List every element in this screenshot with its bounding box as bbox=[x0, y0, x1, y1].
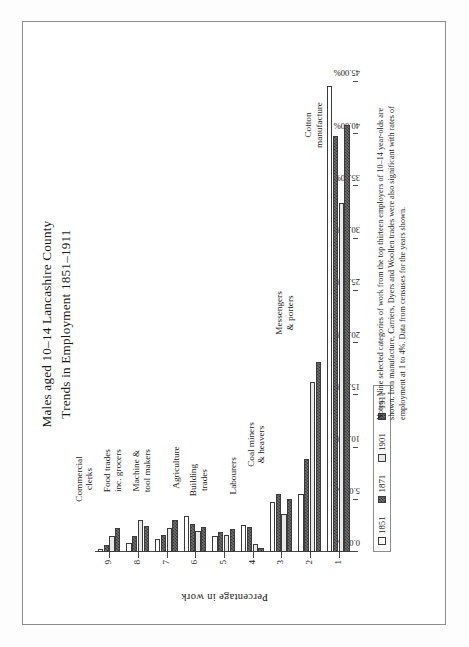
bar-1851-food-trades-inc-grocers bbox=[126, 543, 131, 552]
bar-1911-labourers bbox=[258, 548, 263, 552]
category-axis-tick bbox=[195, 552, 196, 558]
category-axis-number: 1 bbox=[333, 560, 343, 574]
legend-item-1851[interactable]: 1851 bbox=[377, 516, 387, 545]
bar-1901-agriculture bbox=[195, 531, 200, 552]
bar-1901-building-trades bbox=[224, 535, 229, 552]
category-label-line: inc. grocers bbox=[113, 428, 124, 514]
category-label-line: Coal miners bbox=[246, 402, 257, 488]
category-axis-number: 2 bbox=[304, 560, 314, 574]
category-label-line: trades bbox=[199, 437, 210, 523]
bar-1901-labourers bbox=[253, 544, 258, 552]
bar-1911-building-trades bbox=[230, 529, 235, 552]
bar-1901-messengers-porters bbox=[310, 382, 315, 552]
category-label-line: Machine & bbox=[131, 428, 142, 514]
legend-item-1901[interactable]: 1901 bbox=[377, 433, 387, 462]
category-axis-tick bbox=[138, 552, 139, 558]
category-axis-number: 9 bbox=[103, 560, 113, 574]
value-axis-tick bbox=[353, 185, 358, 186]
bar-1901-machine-tool-makers bbox=[167, 528, 172, 552]
category-label-line: & heavers bbox=[256, 402, 267, 488]
category-label: Agriculture bbox=[171, 425, 182, 511]
rotated-chart-host: Males aged 10–14 Lancashire County Trend… bbox=[23, 22, 447, 626]
value-axis-tick bbox=[353, 447, 358, 448]
bar-1871-coal-miners-heavers bbox=[276, 494, 281, 552]
bar-1851-coal-miners-heavers bbox=[270, 502, 275, 552]
category-label: Coal miners& heavers bbox=[246, 402, 267, 488]
category-label-line: clerks bbox=[84, 436, 95, 522]
bar-1871-food-trades-inc-grocers bbox=[132, 536, 137, 552]
legend-swatch-1871 bbox=[378, 496, 386, 504]
value-axis-tick bbox=[353, 499, 358, 500]
bar-1871-agriculture bbox=[190, 524, 195, 552]
value-axis-tick bbox=[353, 290, 358, 291]
category-label-line: tool makers bbox=[142, 428, 153, 514]
legend-swatch-1901 bbox=[378, 454, 386, 462]
bar-1911-messengers-porters bbox=[316, 362, 321, 552]
category-label: Labourers bbox=[228, 433, 239, 519]
bar-1911-agriculture bbox=[201, 527, 206, 552]
category-label-line: Labourers bbox=[228, 433, 239, 519]
legend-swatch-1851 bbox=[378, 538, 386, 546]
category-axis-tick bbox=[310, 552, 311, 558]
category-label: Messengers& porters bbox=[274, 270, 295, 356]
category-label-line: Agriculture bbox=[171, 425, 182, 511]
bar-1911-commercial-clerks bbox=[115, 528, 120, 552]
bar-1911-coal-miners-heavers bbox=[287, 499, 292, 552]
bar-1851-cotton-manufacture bbox=[327, 86, 332, 552]
value-axis-tick bbox=[353, 238, 358, 239]
category-label-line: Commercial bbox=[74, 436, 85, 522]
legend-label-1851: 1851 bbox=[377, 516, 387, 534]
category-axis-tick bbox=[253, 552, 254, 558]
category-axis-number: 8 bbox=[132, 560, 142, 574]
category-label: Food tradesinc. grocers bbox=[102, 428, 123, 514]
category-label-line: Food trades bbox=[102, 428, 113, 514]
bar-1911-food-trades-inc-grocers bbox=[144, 526, 149, 552]
bar-1871-commercial-clerks bbox=[104, 545, 109, 552]
category-label: Buildingtrades bbox=[188, 437, 209, 523]
category-label-line: manufacture bbox=[314, 82, 325, 168]
category-axis-tick bbox=[339, 552, 340, 558]
value-axis-tick bbox=[353, 342, 358, 343]
chart-title-line-1: Males aged 10–14 Lancashire County bbox=[39, 22, 55, 626]
figure-frame: Males aged 10–14 Lancashire County Trend… bbox=[22, 21, 446, 625]
bar-1871-machine-tool-makers bbox=[161, 535, 166, 552]
bar-chart: Males aged 10–14 Lancashire County Trend… bbox=[23, 22, 447, 626]
category-label-line: Building bbox=[188, 437, 199, 523]
bar-1901-commercial-clerks bbox=[109, 536, 114, 552]
bar-1851-messengers-porters bbox=[298, 494, 303, 552]
chart-title-line-2: Trends in Employment 1851–1911 bbox=[58, 22, 74, 626]
bar-1871-cotton-manufacture bbox=[333, 136, 338, 552]
legend-label-1871: 1871 bbox=[377, 475, 387, 493]
category-label-line: Cotton bbox=[303, 82, 314, 168]
category-axis-tick bbox=[281, 552, 282, 558]
value-axis-tick-label: 45.00% bbox=[334, 68, 361, 78]
category-axis-number: 3 bbox=[275, 560, 285, 574]
value-axis-tick bbox=[353, 551, 358, 552]
bar-1851-machine-tool-makers bbox=[155, 539, 160, 552]
legend-label-1901: 1901 bbox=[377, 433, 387, 451]
value-axis-tick bbox=[353, 133, 358, 134]
bar-1851-labourers bbox=[241, 525, 246, 552]
category-axis-number: 6 bbox=[189, 560, 199, 574]
category-axis-tick bbox=[224, 552, 225, 558]
x-axis-title-text: Percentage in work bbox=[180, 592, 267, 603]
bar-1851-commercial-clerks bbox=[98, 549, 103, 552]
bar-1851-agriculture bbox=[184, 517, 189, 553]
bar-1901-food-trades-inc-grocers bbox=[138, 520, 143, 552]
category-axis-tick bbox=[109, 552, 110, 558]
category-label-line: Messengers bbox=[274, 270, 285, 356]
value-axis-tick bbox=[353, 81, 358, 82]
bar-1901-cotton-manufacture bbox=[339, 203, 344, 552]
legend-item-1871[interactable]: 1871 bbox=[377, 475, 387, 504]
bar-1911-cotton-manufacture bbox=[344, 125, 349, 552]
bar-1911-machine-tool-makers bbox=[172, 520, 177, 552]
bar-1851-building-trades bbox=[212, 536, 217, 552]
bar-1871-messengers-porters bbox=[304, 459, 309, 552]
category-label: Commercialclerks bbox=[74, 436, 95, 522]
category-label-line: & porters bbox=[285, 270, 296, 356]
plot-area: 45.00%40.00%35.00%30.00%25.00%20.00%15.0… bbox=[95, 82, 353, 552]
category-axis-tick bbox=[167, 552, 168, 558]
category-axis-number: 7 bbox=[161, 560, 171, 574]
chart-notes: Notes: Nine selected categories of work … bbox=[375, 84, 408, 420]
category-label: Cottonmanufacture bbox=[303, 82, 324, 168]
